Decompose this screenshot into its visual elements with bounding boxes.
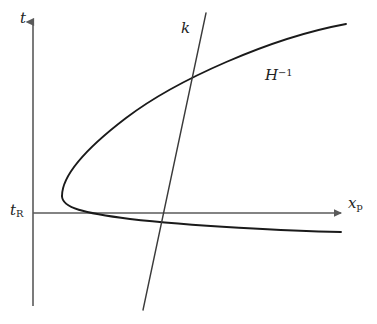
t-axis-label-main: t bbox=[20, 9, 26, 27]
k-line bbox=[143, 13, 206, 310]
k-curve-label: k bbox=[181, 21, 190, 36]
xp-axis-label: xp bbox=[348, 196, 363, 211]
h-inverse-label-exponent: −1 bbox=[278, 67, 293, 78]
tR-label-sub: R bbox=[16, 208, 23, 219]
xp-label-sub: p bbox=[356, 201, 362, 212]
h-inverse-curve-label: H−1 bbox=[265, 68, 293, 83]
t-axis-label: t bbox=[20, 11, 26, 26]
h-inverse-lower-branch bbox=[62, 196, 341, 232]
h-inverse-upper-branch bbox=[62, 24, 346, 196]
k-label-main: k bbox=[181, 19, 190, 37]
diagram-svg bbox=[0, 0, 377, 324]
h-inverse-label-main: H bbox=[265, 66, 278, 84]
figure-canvas: t tR xp k H−1 bbox=[0, 0, 377, 324]
tR-label: tR bbox=[10, 203, 23, 218]
